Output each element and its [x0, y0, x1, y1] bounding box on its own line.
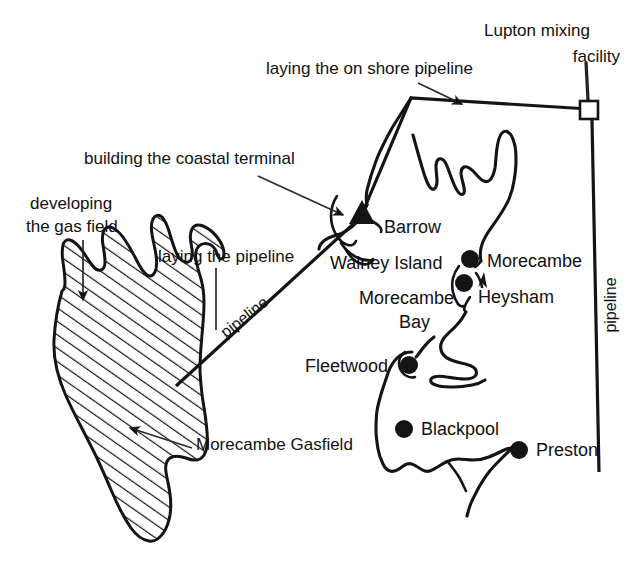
label-subsea-pipeline-word: pipeline: [217, 293, 271, 340]
label-walney-island: Walney Island: [330, 253, 442, 273]
coastal-terminal-marker[interactable]: [349, 200, 375, 224]
preston-dot[interactable]: [510, 441, 528, 459]
onshore-pipeline: [362, 98, 589, 214]
label-lupton-mixing-facility-line2: facility: [573, 47, 621, 66]
coastline-morecambe-bay-north: [413, 131, 516, 267]
label-blackpool: Blackpool: [421, 419, 499, 439]
heysham-dot[interactable]: [455, 274, 473, 292]
morecambe-dot[interactable]: [461, 250, 479, 268]
label-fleetwood: Fleetwood: [305, 356, 388, 376]
label-laying-pipeline: laying the pipeline: [158, 247, 294, 266]
coastline-furness: [319, 98, 411, 264]
label-heysham: Heysham: [478, 287, 554, 307]
label-developing-gas-field-line1: developing: [30, 194, 112, 213]
blackpool-dot[interactable]: [395, 420, 413, 438]
label-building-coastal-terminal: building the coastal terminal: [84, 149, 295, 168]
fleetwood-dot[interactable]: [400, 356, 418, 374]
label-morecambe-bay-line2: Bay: [399, 312, 430, 332]
label-morecambe-bay-line1: Morecambe: [359, 288, 454, 308]
label-preston: Preston: [536, 440, 598, 460]
label-onshore-pipeline-word: pipeline: [602, 277, 619, 332]
leader-coastal-terminal: [258, 176, 343, 215]
label-morecambe-gasfield: Morecambe Gasfield: [196, 435, 353, 454]
label-developing-gas-field-line2: the gas field: [26, 217, 118, 236]
lupton-facility-marker[interactable]: [580, 101, 598, 119]
label-morecambe: Morecambe: [487, 251, 582, 271]
label-barrow: Barrow: [384, 217, 442, 237]
southbound-pipeline: [592, 120, 599, 472]
map-figure: developing the gas field building the co…: [0, 0, 635, 575]
map-canvas: developing the gas field building the co…: [0, 0, 635, 575]
label-laying-onshore-pipeline: laying the on shore pipeline: [266, 59, 473, 78]
label-lupton-mixing-facility-line1: Lupton mixing: [484, 21, 590, 40]
